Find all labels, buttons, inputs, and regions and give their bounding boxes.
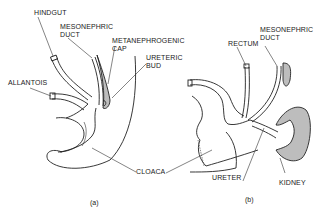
panel-a-drawing [47, 55, 136, 168]
label-hindgut: HINDGUT [34, 9, 67, 17]
label-rectum: RECTUM [228, 40, 259, 48]
panel-b-drawing [188, 63, 310, 172]
caption-panel-b: (b) [245, 196, 254, 203]
label-mesonephric-duct-b: MESONEPHRIC DUCT [260, 26, 313, 42]
label-ureter: URETER [212, 174, 241, 182]
label-cloaca: CLOACA [136, 168, 165, 176]
caption-panel-a: (a) [90, 199, 99, 206]
label-kidney: KIDNEY [279, 179, 306, 187]
label-ureteric-bud: URETERIC BUD [146, 54, 183, 70]
label-mesonephric-duct-a: MESONEPHRIC DUCT [60, 23, 113, 39]
label-metanephrogenic-cap: METANEPHROGENIC CAP [112, 37, 185, 53]
label-allantois: ALLANTOIS [8, 79, 47, 87]
